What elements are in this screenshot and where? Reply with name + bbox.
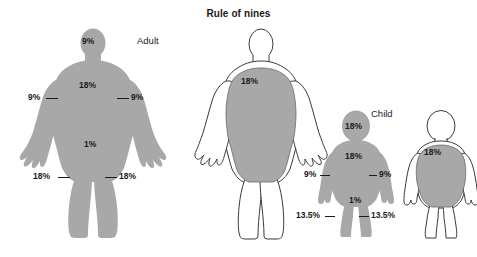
rule-of-nines-diagram: Rule of nines Adult Child 9% [0,0,477,257]
label-adult-back-torso: 18% [241,77,258,86]
adult-front-silhouette [20,29,167,239]
leader-line-child-leg-right [325,216,335,217]
label-adult-front-arm-left: 9% [131,93,143,102]
leader-line-adult-arm-right [46,98,58,99]
leader-line-adult-leg-left [105,177,117,178]
label-child-front-arm-left: 9% [379,170,391,179]
figure-child-back [404,110,477,238]
page-title: Rule of nines [0,8,477,19]
label-adult-front-groin: 1% [84,140,96,149]
figure-adult-front [18,28,168,240]
leader-line-child-arm-left [369,175,377,176]
label-child-front-head: 18% [345,122,362,131]
label-adult-front-arm-right: 9% [28,93,40,102]
label-child-front-leg-left: 13.5% [371,211,395,220]
label-adult-front-torso: 18% [79,81,96,90]
label-child-front-leg-right: 13.5% [296,211,320,220]
label-adult-front-leg-right: 18% [33,172,50,181]
label-child-front-torso: 18% [345,152,362,161]
label-child-back-torso: 18% [424,148,441,157]
leader-line-adult-arm-left [117,98,129,99]
leader-line-child-arm-right [320,175,330,176]
leader-line-adult-leg-right [58,177,70,178]
label-child-front-arm-right: 9% [304,170,316,179]
label-adult-front-head: 9% [82,37,94,46]
leader-line-child-leg-left [359,216,369,217]
adult-back-shaded-torso [226,68,296,182]
label-child-front-groin: 1% [349,196,361,205]
figure-adult-back [196,28,326,240]
label-adult-front-leg-left: 18% [119,172,136,181]
